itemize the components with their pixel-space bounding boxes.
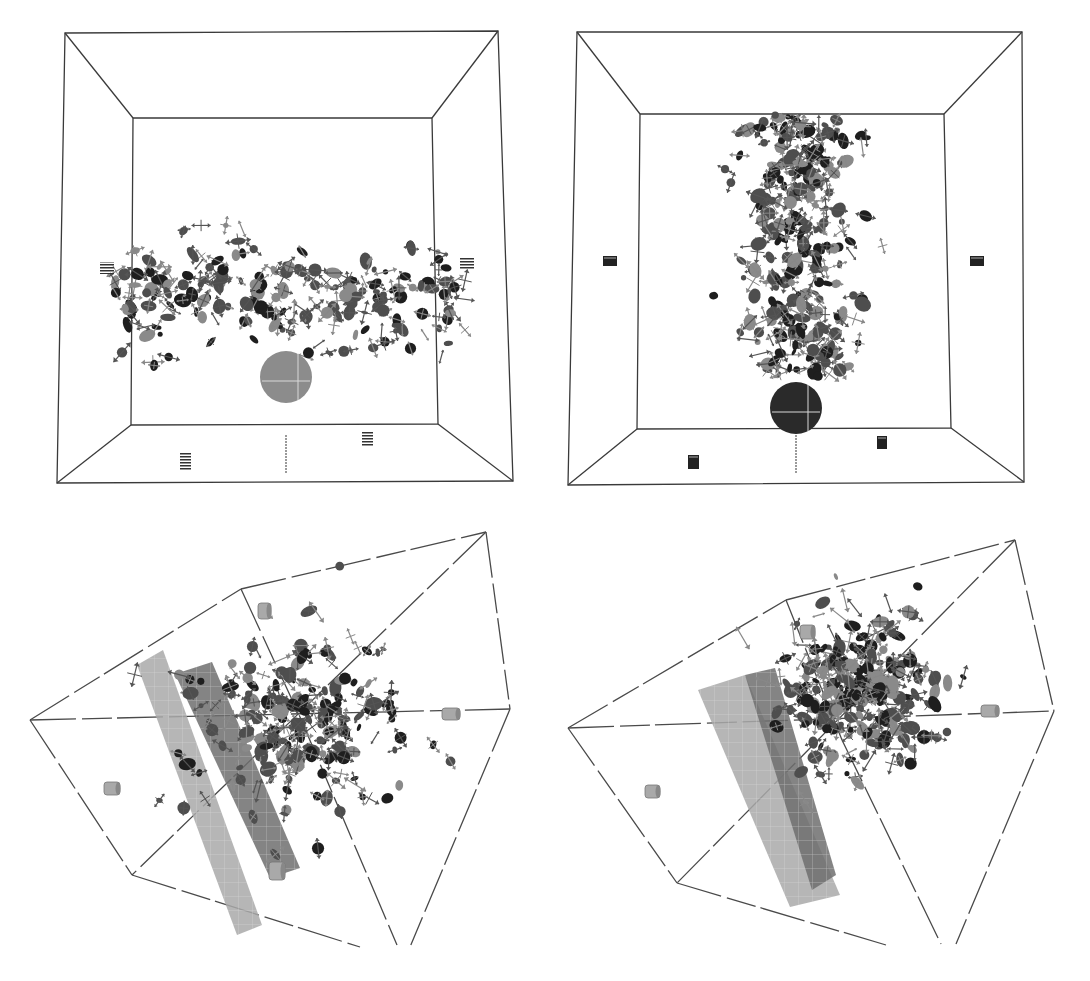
particle-glyph xyxy=(852,332,865,354)
particle-glyph xyxy=(734,253,749,268)
particle-glyph xyxy=(142,288,151,297)
frame-edge xyxy=(1015,540,1054,711)
particle-glyph xyxy=(435,264,442,276)
frame-edge xyxy=(677,883,886,945)
panel-top-right xyxy=(568,32,1024,485)
particle-glyph xyxy=(414,308,431,320)
particle-glyph xyxy=(192,220,211,231)
particle-glyph xyxy=(458,269,471,291)
frame-edge xyxy=(486,532,510,709)
particle-glyph xyxy=(184,245,201,264)
particle-glyph xyxy=(359,324,371,336)
outer-frame xyxy=(57,31,513,483)
particle-glyph xyxy=(295,245,309,258)
particle-glyph xyxy=(352,709,365,723)
particle-glyph xyxy=(444,340,454,346)
frame-edge xyxy=(956,711,1054,944)
particle-glyph xyxy=(440,264,452,273)
particle-glyph xyxy=(459,323,471,336)
particle-glyph xyxy=(421,329,429,340)
particle-glyph xyxy=(836,156,843,170)
particle-glyph xyxy=(825,768,833,781)
particle-glyph xyxy=(843,234,857,249)
particle-glyph xyxy=(775,652,796,664)
large-sphere xyxy=(770,382,822,434)
figure-four-panel-3d-visualization xyxy=(0,0,1090,981)
particle-glyph xyxy=(320,348,336,358)
particle-glyph xyxy=(238,221,247,237)
particle-glyph xyxy=(154,794,164,807)
figure-canvas xyxy=(0,0,1090,981)
particle-glyph xyxy=(244,662,256,674)
particle-glyph xyxy=(445,753,455,769)
particle-glyph xyxy=(312,838,324,859)
particle-glyph xyxy=(796,643,811,647)
particle-glyph xyxy=(833,224,849,237)
particle-glyph xyxy=(842,754,860,765)
striped-marker xyxy=(100,262,114,274)
particle-glyph xyxy=(374,267,397,277)
particle-glyph xyxy=(878,238,887,254)
particle-glyph xyxy=(379,323,384,340)
particle-glyph xyxy=(350,772,359,786)
particle-glyph xyxy=(356,723,362,731)
particle-glyph xyxy=(357,300,371,324)
particle-glyph xyxy=(287,325,296,341)
particle-glyph xyxy=(377,304,389,316)
particle-glyph xyxy=(833,573,839,581)
particle-glyph xyxy=(404,240,419,257)
particle-glyph xyxy=(958,665,969,689)
particle-glyph xyxy=(248,334,260,345)
striped-marker xyxy=(460,258,474,270)
particle-glyph xyxy=(335,562,344,571)
particle-glyph xyxy=(749,350,770,359)
particle-glyph xyxy=(220,216,231,234)
particle-glyph xyxy=(743,314,757,331)
particle-glyph xyxy=(360,677,377,689)
particle-glyph xyxy=(709,292,718,300)
particle-glyph xyxy=(334,804,345,819)
particle-glyph xyxy=(399,271,411,281)
panel-top-left xyxy=(57,31,513,483)
panel-bottom-right xyxy=(568,540,1054,945)
particle-glyph xyxy=(236,277,245,286)
particle-glyph xyxy=(257,671,270,679)
frame-edge xyxy=(568,728,677,883)
particle-glyph xyxy=(900,722,911,733)
particle-glyph xyxy=(303,347,314,358)
particle-glyph xyxy=(325,266,344,280)
particle-glyph xyxy=(848,774,866,792)
particle-glyph xyxy=(844,313,865,326)
particle-glyph xyxy=(148,359,160,371)
particle-glyph xyxy=(313,340,325,349)
frame-edge xyxy=(30,720,132,875)
particle-glyph xyxy=(814,765,827,784)
particle-glyph xyxy=(813,371,823,381)
particle-glyph xyxy=(197,678,204,685)
particle-glyph xyxy=(310,277,320,294)
particle-glyph xyxy=(807,344,819,356)
particle-glyph xyxy=(317,769,327,779)
particle-glyph xyxy=(231,249,240,261)
particle-glyph xyxy=(206,724,219,737)
particle-glyph xyxy=(832,260,847,269)
particle-glyph xyxy=(846,247,856,260)
particle-glyph xyxy=(828,200,848,221)
frame-diagonal xyxy=(57,425,131,483)
particle-glyph xyxy=(395,780,404,791)
figure-caption-fragment xyxy=(0,968,1090,981)
particle-glyph xyxy=(758,139,770,147)
particle-glyph xyxy=(730,149,750,161)
particle-glyph xyxy=(339,672,351,684)
particle-glyph xyxy=(454,296,475,303)
particle-glyph xyxy=(912,581,924,592)
particle-glyph xyxy=(158,332,163,337)
particle-glyph xyxy=(859,137,866,157)
particle-glyph xyxy=(394,728,407,747)
frame-diagonal xyxy=(568,429,637,485)
particle-glyph xyxy=(943,728,951,736)
particle-glyph xyxy=(885,753,898,774)
particle-glyph xyxy=(405,342,416,356)
particle-glyph xyxy=(856,208,876,224)
particle-glyph xyxy=(754,327,764,338)
